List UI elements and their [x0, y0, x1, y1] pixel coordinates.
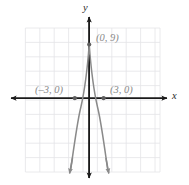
coordinate-plane-svg	[0, 0, 189, 185]
x-axis-label: x	[172, 91, 177, 102]
right-x-intercept-label: (3, 0)	[110, 85, 133, 96]
point-left-root	[73, 96, 77, 100]
parabola-graph-figure: (0, 9) (–3, 0) (3, 0) x y	[0, 0, 189, 185]
point-vertex	[87, 42, 91, 46]
left-x-intercept-label: (–3, 0)	[35, 85, 63, 96]
grid-lines	[25, 28, 160, 172]
point-right-root	[102, 96, 106, 100]
vertex-point-label: (0, 9)	[96, 33, 119, 44]
y-axis-label: y	[83, 3, 88, 14]
